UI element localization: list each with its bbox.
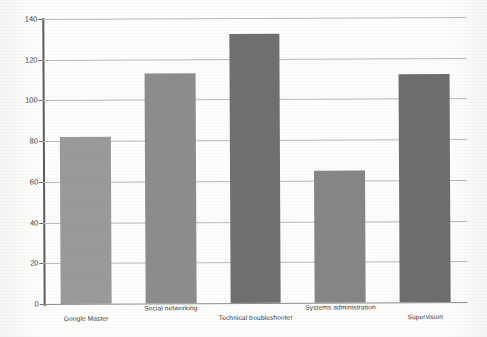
bar-fill — [399, 74, 451, 302]
gridlines — [42, 17, 466, 19]
x-axis-label: Supervision — [408, 313, 444, 320]
y-tick-mark — [38, 60, 42, 61]
bar — [60, 137, 112, 304]
x-axis-labels: Google MasterSocial networkingTechnical … — [44, 302, 468, 337]
bar — [229, 34, 281, 303]
bar-fill — [60, 137, 112, 304]
bar — [314, 170, 366, 303]
y-tick-label: 20 — [30, 259, 38, 268]
y-tick-mark — [39, 141, 43, 142]
y-tick-label: 40 — [30, 218, 38, 227]
y-tick-mark — [39, 182, 43, 183]
y-tick-label: 0 — [34, 300, 38, 309]
bar-fill — [144, 73, 196, 303]
y-tick-label: 60 — [30, 177, 38, 186]
x-axis-label: Systems administration — [305, 303, 375, 310]
bar — [144, 73, 196, 303]
x-axis-label: Google Master — [64, 315, 109, 322]
y-tick-label: 120 — [25, 55, 38, 64]
y-tick-mark — [39, 100, 43, 101]
bar-fill — [229, 34, 281, 303]
bar-fill — [314, 170, 366, 303]
y-tick-label: 80 — [29, 137, 37, 146]
bar-chart-figure: 020406080100120140 Google MasterSocial n… — [0, 0, 487, 337]
y-tick-mark — [38, 19, 42, 20]
bar — [399, 74, 451, 302]
y-tick-label: 140 — [25, 15, 38, 24]
chart-title — [95, 0, 425, 2]
x-axis-label: Social networking — [144, 304, 197, 311]
plot-area: 020406080100120140 — [42, 17, 467, 304]
gridline — [42, 17, 466, 20]
y-tick-label: 100 — [25, 96, 38, 105]
y-tick-mark — [39, 263, 43, 264]
x-axis-label: Technical troubleshooter — [219, 314, 293, 321]
y-tick-mark — [39, 223, 43, 224]
